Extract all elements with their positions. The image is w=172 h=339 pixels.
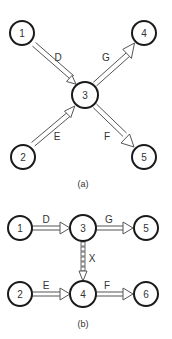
arrow-a-f xyxy=(93,104,134,147)
caption-b: (b) xyxy=(78,319,89,329)
arrow-b-f xyxy=(96,288,133,300)
svg-text:2: 2 xyxy=(17,289,23,300)
svg-text:4: 4 xyxy=(80,289,86,300)
edge-label-a-f: F xyxy=(104,131,110,142)
node-b-5: 5 xyxy=(134,216,158,240)
svg-text:1: 1 xyxy=(19,28,25,39)
svg-text:5: 5 xyxy=(143,223,149,234)
svg-text:4: 4 xyxy=(141,28,147,39)
edge-label-b-x: X xyxy=(89,253,96,264)
arrow-b-g xyxy=(96,222,133,234)
node-a-4: 4 xyxy=(132,21,156,45)
node-b-6: 6 xyxy=(134,282,158,306)
network-diagram-canvas: D E G F 1 2 xyxy=(0,0,172,339)
svg-text:3: 3 xyxy=(80,223,86,234)
arrow-b-e xyxy=(32,288,70,300)
edge-label-b-f: F xyxy=(104,280,110,291)
edge-label-a-e: E xyxy=(54,131,61,142)
svg-text:1: 1 xyxy=(17,223,23,234)
edge-label-a-g: G xyxy=(102,52,110,63)
node-b-2: 2 xyxy=(8,282,32,306)
node-a-3: 3 xyxy=(72,82,98,108)
arrow-b-x-dummy xyxy=(79,242,87,281)
arrow-a-g xyxy=(93,43,134,86)
arrow-a-d xyxy=(32,43,76,85)
diagram-b: D G X E xyxy=(8,214,158,330)
edge-label-a-d: D xyxy=(54,52,61,63)
edge-label-b-d: D xyxy=(42,214,49,225)
svg-text:2: 2 xyxy=(20,152,26,163)
svg-text:5: 5 xyxy=(141,152,147,163)
node-b-3: 3 xyxy=(70,215,96,241)
diagram-a: D E G F 1 2 xyxy=(10,21,156,189)
arrow-b-d xyxy=(32,222,70,234)
node-a-1: 1 xyxy=(10,21,34,45)
svg-text:3: 3 xyxy=(82,90,88,101)
node-b-4: 4 xyxy=(70,281,96,307)
node-b-1: 1 xyxy=(8,216,32,240)
svg-text:6: 6 xyxy=(143,289,149,300)
node-a-5: 5 xyxy=(132,145,156,169)
edge-label-b-g: G xyxy=(105,214,113,225)
caption-a: (a) xyxy=(78,179,89,189)
edge-label-b-e: E xyxy=(43,280,50,291)
node-a-2: 2 xyxy=(11,145,35,169)
